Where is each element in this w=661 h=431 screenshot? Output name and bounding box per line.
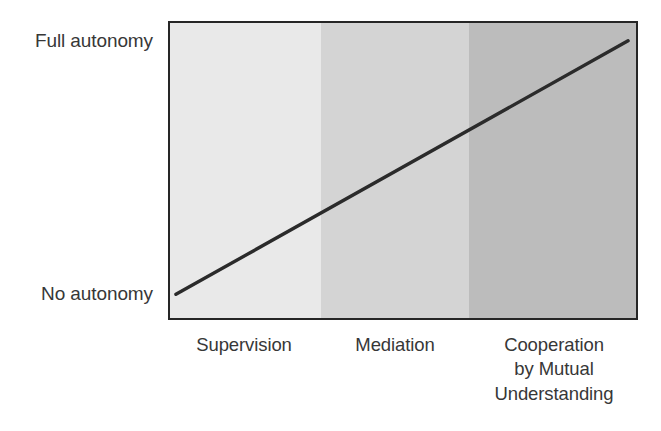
plot-area [168, 21, 638, 320]
x-axis-label-supervision: Supervision [168, 333, 320, 357]
x-axis-label-mediation: Mediation [320, 333, 470, 357]
x-axis-label-cooperation: Cooperation by Mutual Understanding [468, 333, 640, 406]
autonomy-levels-figure: Full autonomy No autonomy Supervision Me… [0, 0, 661, 431]
y-axis-label-full-autonomy: Full autonomy [35, 31, 153, 50]
autonomy-trend-line [170, 23, 636, 318]
y-axis-label-no-autonomy: No autonomy [41, 284, 153, 303]
